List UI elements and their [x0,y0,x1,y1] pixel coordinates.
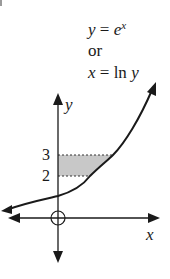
curve-arrow-lower-icon [1,205,12,214]
x-axis-arrow-right-icon [148,213,160,223]
y-axis-arrow-up-icon [53,93,63,105]
y-axis-arrow-down-icon [53,251,63,263]
x-axis-label: x [146,226,154,243]
tick-label-3: 3 [42,147,50,163]
curve-arrow-upper-icon [147,82,156,96]
y-axis-label: y [65,96,73,113]
exponential-curve [6,90,152,210]
tick-label-2: 2 [42,168,50,184]
x-axis-arrow-left-icon [8,213,20,223]
shaded-region [58,155,113,176]
graph-canvas [0,0,170,279]
